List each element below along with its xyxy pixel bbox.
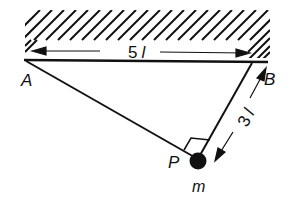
string-AP — [26, 61, 196, 158]
dimension-AB-label: 5l — [128, 43, 146, 62]
point-label-A: A — [20, 71, 32, 90]
mass-bob — [190, 153, 207, 170]
point-label-B: B — [264, 70, 275, 89]
point-label-P: P — [168, 153, 180, 172]
dimension-BP-label: 3l — [234, 105, 259, 130]
mass-label: m — [192, 178, 205, 195]
ceiling-line-AB — [24, 60, 268, 62]
diagram-canvas: 5l 3l A B P m — [0, 0, 297, 198]
